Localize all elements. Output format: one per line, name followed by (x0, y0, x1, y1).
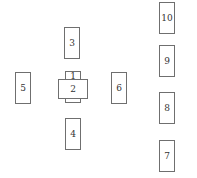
card-position-6: 6 (111, 72, 127, 104)
card-position-3: 3 (64, 27, 80, 59)
card-position-8: 8 (159, 92, 175, 124)
card-number-label: 8 (164, 103, 170, 113)
card-number-label: 3 (69, 38, 75, 48)
card-number-label: 4 (70, 129, 76, 139)
card-position-2-crossing: 2 (58, 79, 88, 99)
card-position-5: 5 (15, 72, 31, 104)
card-number-label: 2 (70, 84, 76, 94)
card-position-7: 7 (159, 140, 175, 172)
card-number-label: 5 (20, 83, 26, 93)
card-number-label: 6 (116, 83, 122, 93)
card-position-10: 10 (159, 2, 175, 34)
card-number-label: 9 (164, 56, 170, 66)
card-position-9: 9 (159, 45, 175, 77)
card-position-4: 4 (65, 118, 81, 150)
card-number-label: 10 (161, 13, 172, 23)
card-number-label: 7 (164, 151, 170, 161)
